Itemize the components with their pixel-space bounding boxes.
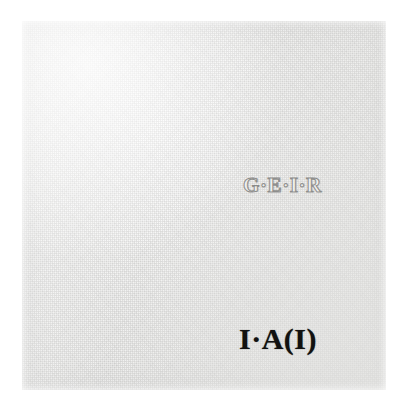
textured-paper-panel xyxy=(22,21,386,390)
lower-inscription: I·A(I) xyxy=(239,322,317,356)
upper-inscription: G·E·I·R xyxy=(243,173,322,198)
image-canvas: G·E·I·R I·A(I) xyxy=(0,0,407,409)
